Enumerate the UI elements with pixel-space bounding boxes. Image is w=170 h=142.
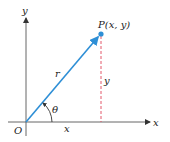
y-axis-label: y [21, 5, 28, 16]
diagram-canvas: y x O P(x, y) r θ x y [0, 0, 170, 142]
radius-vector [26, 37, 98, 122]
polar-coordinates-diagram: y x O P(x, y) r θ x y [0, 0, 170, 142]
x-leg-label: x [64, 123, 70, 134]
angle-label: θ [52, 104, 58, 115]
angle-arc [43, 103, 52, 122]
x-axis-label: x [153, 117, 159, 128]
origin-label: O [14, 125, 22, 136]
point-p [98, 31, 103, 36]
point-label: P(x, y) [97, 19, 130, 30]
y-leg-label: y [103, 75, 110, 86]
radius-label: r [55, 68, 61, 79]
